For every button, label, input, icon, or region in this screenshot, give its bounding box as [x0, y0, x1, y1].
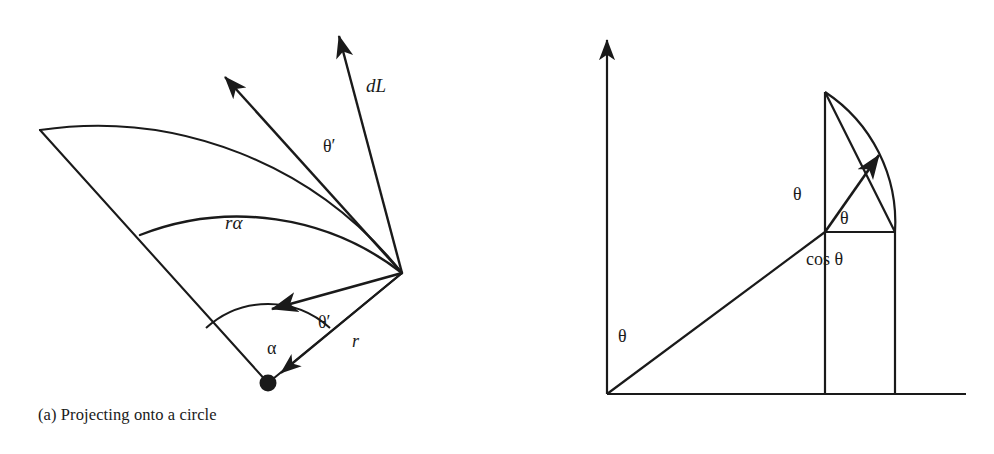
- panel-b-drawing: θ θ θ cos θ: [497, 0, 994, 454]
- arrow-r-to-point: [281, 273, 402, 373]
- label-r: r: [352, 331, 360, 351]
- source-point-dot: [260, 375, 277, 392]
- angle-arc-alpha: [206, 304, 330, 328]
- arrow-tangent-at-apex: [272, 273, 402, 309]
- inner-arc-r-alpha: [140, 217, 402, 273]
- label-dl: dL: [366, 75, 386, 96]
- panel-a-drawing: dL θ′ rα θ′ α r: [0, 0, 497, 454]
- caption-panel-a: (a) Projecting onto a circle: [38, 405, 217, 425]
- label-theta-inner: θ: [840, 208, 849, 228]
- panel-a-projecting-onto-circle: dL θ′ rα θ′ α r (a) Projecting onto a ci…: [0, 0, 497, 454]
- panel-b-projecting-onto-line: θ θ θ cos θ (b) Projecting onto a line: [497, 0, 994, 454]
- label-r-alpha: rα: [225, 212, 243, 233]
- outer-arc: [40, 126, 402, 273]
- arrow-normal-direction: [825, 155, 879, 232]
- sector-left-edge: [40, 130, 268, 383]
- label-alpha: α: [267, 338, 277, 358]
- label-theta-prime-lower: θ′: [318, 312, 331, 332]
- label-cos-theta: cos θ: [806, 249, 843, 269]
- triangle-hypotenuse: [825, 92, 895, 232]
- incident-ray: [607, 232, 825, 394]
- label-theta-axis: θ: [618, 326, 627, 346]
- figure-root: dL θ′ rα θ′ α r (a) Projecting onto a ci…: [0, 0, 994, 454]
- label-theta-vertical: θ: [793, 184, 802, 204]
- label-theta-prime-upper: θ′: [323, 136, 336, 156]
